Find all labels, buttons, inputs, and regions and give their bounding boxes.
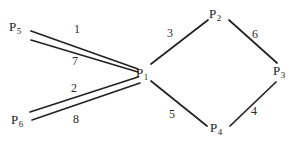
edge-weight-label-e1: 1	[74, 23, 80, 35]
node-subscript: 3	[280, 70, 285, 80]
graph-edges-layer	[0, 0, 302, 148]
edge-weight-label-e7: 7	[72, 55, 78, 67]
graph-node-p1: P1	[136, 66, 148, 82]
edge-line-group	[30, 20, 277, 126]
graph-node-p2: P2	[209, 7, 221, 23]
graph-edge-p6-p1	[32, 83, 140, 120]
edge-weight-label-e2: 2	[71, 82, 77, 94]
graph-node-p4: P4	[210, 121, 222, 137]
graph-edge-p5-p1	[31, 31, 138, 69]
graph-edge-p5-p1	[31, 40, 138, 72]
edge-weight-label-e6: 6	[252, 28, 258, 40]
graph-edge-p4-p1	[151, 81, 207, 126]
diagram-canvas: P1P2P3P4P5P6 17283645	[0, 0, 302, 148]
edge-weight-label-e3: 3	[167, 27, 173, 39]
graph-edge-p6-p1	[30, 77, 138, 112]
edge-weight-label-e8: 8	[73, 113, 79, 125]
node-subscript: 1	[143, 72, 148, 82]
graph-node-p6: P6	[11, 113, 23, 129]
graph-node-p5: P5	[9, 20, 21, 36]
node-subscript: 2	[216, 13, 221, 23]
node-subscript: 6	[18, 119, 23, 129]
graph-edge-p1-p2	[151, 20, 208, 64]
edge-weight-label-e5: 5	[169, 108, 175, 120]
graph-node-p3: P3	[273, 64, 285, 80]
edge-weight-label-e4: 4	[251, 105, 257, 117]
node-subscript: 4	[217, 127, 222, 137]
node-subscript: 5	[16, 26, 21, 36]
